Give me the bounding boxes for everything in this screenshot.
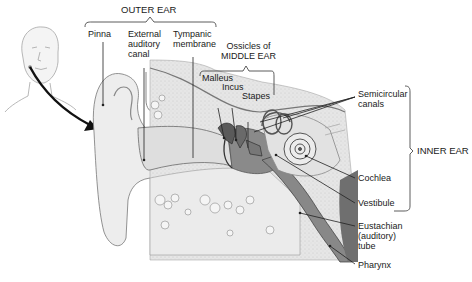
cochlea-shape xyxy=(284,133,316,165)
ossicles-label: Ossicles of MIDDLE EAR xyxy=(221,41,276,61)
external-auditory-canal-label: External auditory canal xyxy=(128,29,161,59)
pharynx-label: Pharynx xyxy=(358,260,391,270)
incus-label: Incus xyxy=(222,82,244,92)
cochlea-label: Cochlea xyxy=(358,173,391,183)
tympanic-membrane-label: Tympanic membrane xyxy=(173,29,216,49)
vestibule-label: Vestibule xyxy=(358,198,395,208)
inner-ear-label: INNER EAR xyxy=(417,146,469,156)
outer-ear-label: OUTER EAR xyxy=(121,5,176,15)
outer-ear-bracket xyxy=(85,17,216,27)
semicircular-canals-label: Semicircular canals xyxy=(358,89,408,109)
ear-anatomy-diagram: OUTER EAR Pinna External auditory canal … xyxy=(0,0,472,282)
head-figure xyxy=(5,27,76,112)
stapes-label: Stapes xyxy=(242,91,270,101)
eustachian-tube-label: Eustachian (auditory) tube xyxy=(358,221,403,251)
pinna-label: Pinna xyxy=(88,29,111,39)
